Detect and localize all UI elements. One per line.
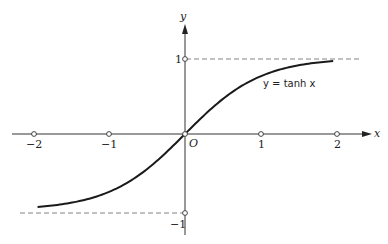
tick-label-x-2: 2: [334, 138, 341, 151]
tick-label-y-1: 1: [175, 53, 182, 66]
tick-x-1: [259, 132, 264, 137]
tick-y-m1: [183, 211, 188, 216]
curve-label: y = tanh x: [263, 78, 316, 89]
tick-y-1: [183, 57, 188, 62]
y-axis-arrow-icon: [182, 24, 188, 34]
tick-label-x-m1: −1: [101, 138, 117, 151]
tick-x-m1: [107, 132, 112, 137]
tick-label-x-m2: −2: [26, 138, 42, 151]
origin-label: O: [189, 137, 198, 150]
tick-x-2: [335, 132, 340, 137]
origin-point: [183, 132, 188, 137]
y-axis-label: y: [179, 10, 187, 23]
x-axis-arrow-icon: [362, 131, 372, 137]
x-axis-label: x: [374, 127, 381, 140]
tick-label-y-m1: −1: [170, 218, 186, 231]
tick-x-m2: [32, 132, 37, 137]
tanh-plot: x y −2 −1 1 2 1 −1 O y = tanh x: [0, 0, 388, 244]
tick-label-x-1: 1: [258, 138, 265, 151]
